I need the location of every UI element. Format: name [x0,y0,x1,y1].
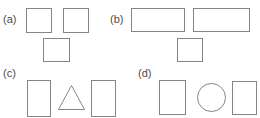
panel-label-d: (d) [138,68,151,79]
panel-label-c: (c) [3,68,16,79]
panel-label-a: (a) [3,14,16,25]
clipped-header-text: PROBLEMS [0,0,260,1]
panel-c-triangle [58,85,85,110]
panel-c-rectangle [27,80,51,117]
panel-c-rectangle [91,80,116,117]
panel-label-b: (b) [110,14,123,25]
panel-a-square [63,8,89,33]
panel-a-square [43,38,70,62]
panel-b-rectangle [193,8,250,32]
panel-b-square [177,38,203,62]
panel-b-rectangle [131,8,185,32]
triangle-icon [58,85,85,110]
panel-d-rectangle [159,80,186,115]
panel-a-square [26,8,52,33]
shape-figure: PROBLEMS (a)(b)(c)(d) [0,0,260,118]
panel-d-circle [197,83,226,112]
panel-d-rectangle [232,81,257,115]
